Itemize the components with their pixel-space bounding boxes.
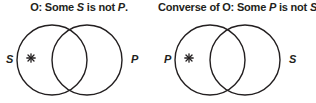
caption-suffix: . bbox=[125, 1, 128, 13]
diagram-converse-of-o-proposition: Converse of O: Some P is not S. P S bbox=[158, 0, 316, 103]
caption-middle: is not bbox=[276, 1, 310, 13]
caption-subject-term: S bbox=[77, 1, 84, 13]
diagram-o-proposition: O: Some S is not P. S P bbox=[0, 0, 158, 103]
asterisk-mark-converse-o bbox=[185, 54, 193, 62]
caption-prefix: O: Some bbox=[30, 1, 77, 13]
caption-predicate-term: P bbox=[118, 1, 125, 13]
term-label-left-converse-o: P bbox=[164, 54, 171, 65]
venn-diagram-figure: O: Some S is not P. S P Converse of O: S… bbox=[0, 0, 316, 103]
term-label-right-converse-o: S bbox=[289, 54, 296, 65]
caption-predicate-term: S bbox=[310, 1, 316, 13]
caption-converse-of-o: Converse of O: Some P is not S. bbox=[158, 0, 316, 16]
caption-middle: is not bbox=[84, 1, 118, 13]
asterisk-mark-o bbox=[27, 54, 35, 62]
term-label-right-o: P bbox=[131, 54, 138, 65]
caption-prefix: Converse of O: Some bbox=[158, 1, 269, 13]
caption-o-proposition: O: Some S is not P. bbox=[0, 0, 158, 16]
caption-subject-term: P bbox=[269, 1, 276, 13]
term-label-left-o: S bbox=[6, 54, 13, 65]
